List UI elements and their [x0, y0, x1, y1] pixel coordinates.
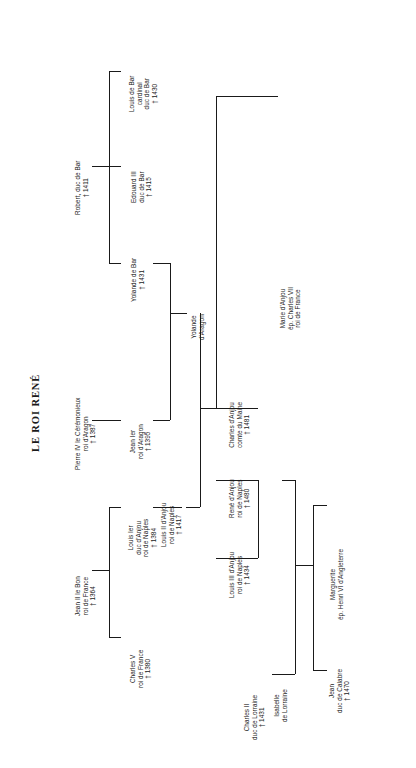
connector-robert-bus: [109, 71, 110, 263]
connector-charles2-isabelle: [272, 674, 295, 675]
node-line: Isabelle: [273, 689, 281, 722]
node-line: ép. Charles VII: [287, 287, 295, 330]
node-line: cardinal: [136, 76, 144, 112]
node-line: Charles V: [129, 650, 137, 688]
node-line: duc d'Anjou: [135, 519, 143, 557]
node-line: ép. Henri VI d'Angleterre: [337, 549, 345, 620]
connector-jean1-in: [153, 420, 170, 421]
node-line: duc de Calabre: [336, 669, 344, 713]
node-line: † 1430: [151, 76, 159, 112]
node-line: † 1384: [150, 519, 158, 557]
node-line: † 1480: [243, 479, 251, 518]
connector-to-yolbar: [109, 263, 121, 264]
node-line: Marguerite: [329, 549, 337, 620]
node-jean-ier-daragon: Jean Ier roi d'Aragon † 1395: [129, 424, 152, 459]
node-line: duc de Lorraine: [251, 695, 259, 740]
node-line: † 1395: [144, 424, 152, 459]
connector-yolaragon-bus: [170, 263, 171, 420]
connector-to-charles5: [109, 637, 121, 638]
connector-children-bus: [216, 96, 217, 408]
connector-louis2-in: [186, 507, 200, 508]
connector-marriage-rene-isabelle: [295, 480, 296, 674]
connector-to-marguerite: [313, 505, 327, 506]
node-line: roi de Naples: [236, 552, 244, 598]
node-line: † 1364: [89, 576, 97, 616]
connector-to-marieanj: [216, 96, 278, 97]
node-line: roi d'Aragon: [137, 424, 145, 459]
node-edouard-iii-duc-de-bar: Edouard III duc de Bar † 1415: [130, 171, 153, 203]
node-line: Louis de Bar: [128, 76, 136, 112]
node-line: † 1434: [243, 552, 251, 598]
connector-robert-stem: [92, 166, 109, 167]
node-louis-ier-danjou: Louis Ier duc d'Anjou roi de Naples † 13…: [127, 519, 157, 557]
node-jean-duc-de-calabre: Jean duc de Calabre † 1470: [328, 669, 351, 713]
node-line: † 1415: [145, 171, 153, 203]
node-louis-ii-danjou: Louis II d'Anjou roi de Naples † 1417: [160, 503, 183, 547]
connector-jean2-bus: [109, 507, 110, 637]
node-line: roi de France: [82, 576, 90, 616]
connector-yolbar-in: [153, 263, 170, 264]
node-line: † 1431: [258, 695, 266, 740]
connector-to-jeancal: [313, 670, 327, 671]
node-line: d'Aragon: [198, 314, 206, 340]
node-line: roi de Naples: [168, 503, 176, 547]
node-line: † 1431: [138, 258, 146, 302]
node-line: † 1380: [144, 650, 152, 688]
node-yolande-daragon: Yolande d'Aragon: [190, 314, 205, 340]
node-line: de Lorraine: [281, 689, 289, 722]
node-line: Jean: [328, 669, 336, 713]
connector-children2-bus: [313, 505, 314, 670]
node-line: † 1470: [343, 669, 351, 713]
node-line: Charles II: [243, 695, 251, 740]
node-line: Charles d'Anjou: [228, 402, 236, 448]
node-jean-ii-le-bon: Jean II le Bon roi de France † 1364: [74, 576, 97, 616]
node-isabelle-de-lorraine: Isabelle de Lorraine: [273, 689, 288, 722]
node-line: roi de Naples: [236, 479, 244, 518]
node-yolande-de-bar: Yolande de Bar † 1431: [130, 258, 145, 302]
node-charles-v: Charles V roi de France † 1380: [129, 650, 152, 688]
node-line: † 1481: [243, 402, 251, 448]
node-charles-ii-duc-de-lorraine: Charles II duc de Lorraine † 1431: [243, 695, 266, 740]
page-title: LE ROI RENÉ: [30, 374, 41, 452]
node-line: Jean Ier: [129, 424, 137, 459]
node-line: † 1387: [89, 397, 97, 470]
node-louis-de-bar-cardinal: Louis de Bar cardinal duc de Bar † 1430: [128, 76, 158, 112]
connector-couple-out: [200, 408, 216, 409]
node-line: Jean II le Bon: [74, 576, 82, 616]
node-line: Pierre IV le Cérémonieux: [74, 397, 82, 470]
connector-marriage-louis2-yolande: [200, 313, 201, 507]
node-line: roi de France: [137, 650, 145, 688]
node-robert-duc-de-bar: Robert, duc de Bar † 1411: [74, 160, 89, 215]
node-line: Marie d'Anjou: [279, 287, 287, 330]
node-marguerite: Marguerite ép. Henri VI d'Angleterre: [329, 549, 344, 620]
node-line: René d'Anjou: [228, 479, 236, 518]
node-line: † 1417: [175, 503, 183, 547]
node-line: Louis II d'Anjou: [160, 503, 168, 547]
node-charles-danjou-comte-du-maine: Charles d'Anjou comte du Maine † 1481: [228, 402, 251, 448]
node-line: Louis Ier: [127, 519, 135, 557]
connector-to-louis1: [109, 507, 121, 508]
node-line: Robert, duc de Bar: [74, 160, 82, 215]
node-rene-danjou: René d'Anjou roi de Naples † 1480: [228, 479, 251, 518]
node-marie-danjou: Marie d'Anjou ép. Charles VII roi de Fra…: [279, 287, 302, 330]
node-line: Edouard III: [130, 171, 138, 203]
connector-couple2-out: [295, 565, 313, 566]
node-line: roi de Naples: [142, 519, 150, 557]
node-line: Yolande: [190, 314, 198, 340]
connector-to-edouard3: [109, 166, 121, 167]
node-line: duc de Bar: [143, 76, 151, 112]
connector-jean2-stem: [92, 570, 109, 571]
node-line: roi d'Aragon: [82, 397, 90, 470]
node-line: † 1411: [82, 160, 90, 215]
node-louis-iii-danjou: Louis III d'Anjou roi de Naples † 1434: [228, 552, 251, 598]
node-pierre-iv-le-ceremonieux: Pierre IV le Cérémonieux roi d'Aragon † …: [74, 397, 97, 470]
connector-rene-down: [282, 480, 295, 481]
node-line: Louis III d'Anjou: [228, 552, 236, 598]
connector-yolaragon-out: [170, 313, 187, 314]
connector-rene-louis3-bus: [258, 480, 259, 558]
genealogy-sheet: LE ROI RENÉ Jean II le Bon roi de France…: [0, 0, 416, 768]
node-line: duc de Bar: [138, 171, 146, 203]
node-line: comte du Maine: [236, 402, 244, 448]
node-line: roi de France: [294, 287, 302, 330]
connector-to-louisbar: [109, 71, 121, 72]
